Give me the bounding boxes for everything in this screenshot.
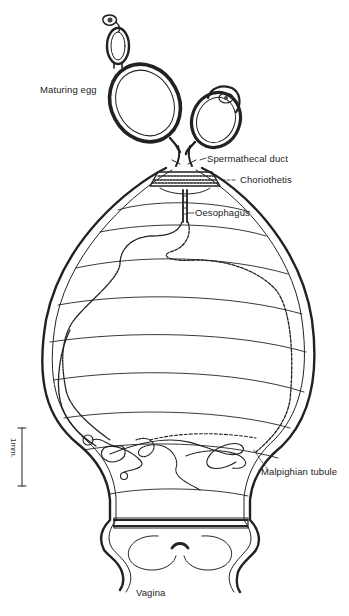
leader-lines bbox=[188, 158, 268, 470]
oesophagus bbox=[183, 190, 187, 222]
ovariole-tip bbox=[103, 15, 129, 68]
spermathecal-duct-junction bbox=[172, 146, 196, 166]
vaginal-lobes bbox=[128, 536, 231, 570]
label-oesophagus: Oesophagus bbox=[195, 207, 250, 218]
choriothetis bbox=[150, 172, 220, 194]
scale-bar bbox=[18, 428, 26, 486]
label-malpighian-tubule: Malpighian tubule bbox=[261, 466, 337, 477]
label-vagina: Vagina bbox=[136, 587, 165, 598]
label-choriothetis: Choriothetis bbox=[240, 174, 292, 185]
label-maturing-egg: Maturing egg bbox=[40, 84, 97, 95]
anatomical-diagram: Maturing egg Spermathecal duct Choriothe… bbox=[0, 0, 349, 616]
maturing-egg bbox=[96, 52, 194, 155]
right-egg bbox=[184, 85, 248, 154]
vaginal-band bbox=[114, 518, 248, 528]
label-spermathecal-duct: Spermathecal duct bbox=[207, 153, 288, 164]
malpighian-tangle bbox=[83, 434, 256, 490]
scale-bar-label: 1mm. bbox=[9, 438, 18, 458]
